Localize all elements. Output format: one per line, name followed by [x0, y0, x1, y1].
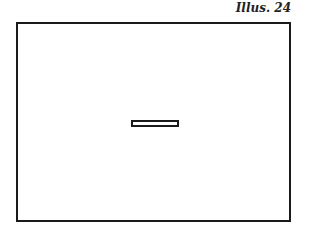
illustration-caption: Illus. 24	[236, 1, 291, 15]
outer-frame	[16, 22, 291, 222]
center-slot	[131, 120, 179, 127]
